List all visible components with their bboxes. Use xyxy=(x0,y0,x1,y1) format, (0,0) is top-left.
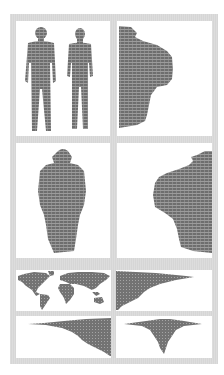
panel-middle-right xyxy=(117,143,212,258)
panel-bottom-1-left xyxy=(16,270,111,311)
human-silhouettes-image xyxy=(16,21,110,136)
panel-top-right xyxy=(117,21,212,136)
triangular-distribution-right-image xyxy=(116,270,212,311)
profile-silhouette-image xyxy=(117,21,212,136)
panel-bottom-1-right xyxy=(116,270,212,311)
panel-bottom-2-left xyxy=(16,316,111,358)
panel-top-left xyxy=(16,21,110,136)
panel-middle-left xyxy=(16,143,110,258)
upper-body-silhouette-image xyxy=(16,143,110,258)
triangular-distribution-down-image xyxy=(116,316,212,358)
triangular-distribution-left-image xyxy=(16,316,111,358)
panel-bottom-2-right xyxy=(116,316,212,358)
world-map-image xyxy=(16,270,111,311)
profile-silhouette-cropped-image xyxy=(117,143,212,258)
